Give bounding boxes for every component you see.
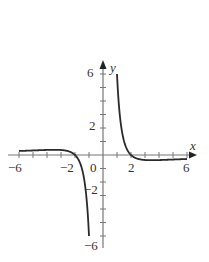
y-axis-label: y xyxy=(108,60,116,75)
x-tick-label-6: 6 xyxy=(183,160,190,175)
x-tick-label-2: 2 xyxy=(128,160,135,175)
x-tick-label-neg6: −6 xyxy=(8,160,22,175)
curve-left-branch xyxy=(19,150,89,236)
y-tick-label-neg6: −6 xyxy=(84,238,98,253)
curve-right-branch xyxy=(117,74,187,160)
y-tick-label-6: 6 xyxy=(87,65,94,80)
y-tick-label-2: 2 xyxy=(89,118,96,133)
y-axis-arrow-icon xyxy=(100,60,107,69)
x-tick-label-neg2: −2 xyxy=(60,160,74,175)
function-graph: x y −6 −2 0 2 6 6 2 −2 −6 xyxy=(0,0,209,262)
x-tick-label-0: 0 xyxy=(90,160,97,175)
x-axis-label: x xyxy=(189,138,196,153)
y-tick-label-neg2: −2 xyxy=(84,182,98,197)
